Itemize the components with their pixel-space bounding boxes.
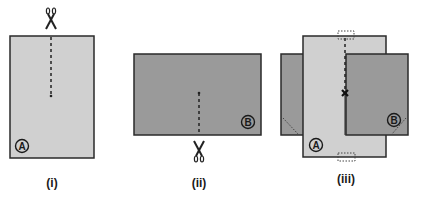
- svg-text:B: B: [390, 115, 397, 126]
- figure-iii: A B (iii): [281, 31, 408, 186]
- cut-end-dot: [50, 95, 53, 98]
- figure-ii: B (ii): [134, 54, 261, 190]
- figure-i: A (i): [10, 8, 94, 190]
- cut-end-dot: [198, 92, 201, 95]
- caption-iii: (iii): [337, 172, 355, 186]
- sheet-b-right-part: [346, 54, 408, 135]
- caption-ii: (ii): [192, 176, 207, 190]
- svg-text:A: A: [312, 140, 319, 151]
- svg-text:A: A: [18, 141, 25, 152]
- caption-i: (i): [46, 176, 57, 190]
- scissors-icon: [46, 8, 56, 29]
- diagram-canvas: A (i) B (ii): [0, 0, 421, 199]
- sheet-b-left-part: [281, 54, 305, 135]
- svg-text:B: B: [244, 117, 251, 128]
- scissors-icon: [194, 141, 204, 162]
